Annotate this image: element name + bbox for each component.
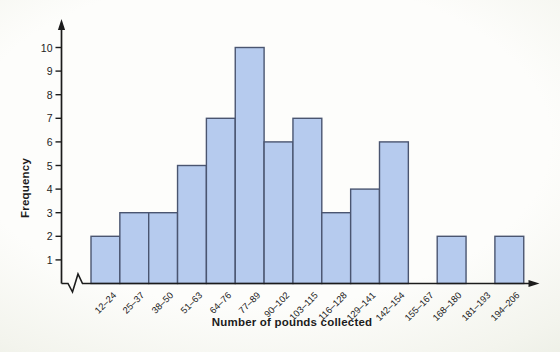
y-tick-label: 6 [27,137,53,148]
y-axis-arrow-icon [58,19,65,30]
histogram-bar [351,189,380,283]
y-tick-label: 8 [27,90,53,101]
y-tick-label: 5 [27,161,53,172]
histogram-bar [149,213,178,284]
y-tick-label: 3 [27,208,53,219]
histogram-bar [293,118,322,283]
y-tick-label: 10 [27,43,53,54]
histogram-chart: Frequency Number of pounds collected 123… [0,0,560,352]
histogram-bar [495,236,524,283]
x-axis-arrow-icon [529,280,540,287]
y-tick-label: 9 [27,66,53,77]
y-tick-label: 4 [27,184,53,195]
y-tick-label: 2 [27,231,53,242]
histogram-bar [178,166,207,284]
histogram-bar [380,142,409,284]
y-tick-label: 7 [27,113,53,124]
histogram-bar [120,213,149,284]
histogram-bar [91,236,120,283]
histogram-bar [206,118,235,283]
y-tick-label: 1 [27,255,53,266]
scanned-page: Frequency Number of pounds collected 123… [0,0,560,352]
histogram-bar [437,236,466,283]
histogram-bar [322,213,351,284]
histogram-bar [235,48,264,284]
histogram-bar [264,142,293,284]
